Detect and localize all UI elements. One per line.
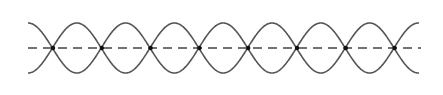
standing-wave-diagram	[0, 0, 443, 95]
node-point	[100, 46, 104, 50]
node-point	[246, 46, 250, 50]
node-point	[295, 46, 299, 50]
node-point	[148, 46, 152, 50]
node-point	[197, 46, 201, 50]
node-point	[344, 46, 348, 50]
node-point	[392, 46, 396, 50]
node-point	[51, 46, 55, 50]
